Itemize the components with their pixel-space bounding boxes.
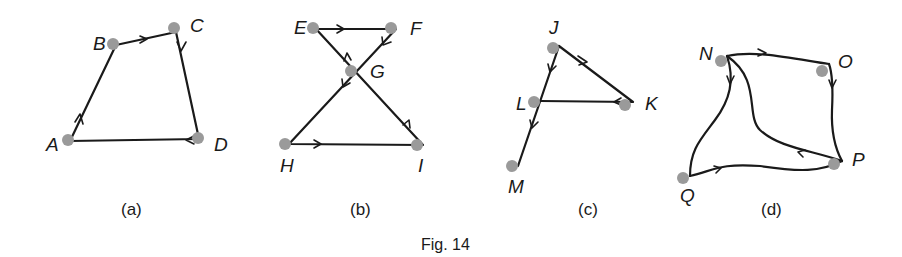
subfigure-label-b: (b) bbox=[350, 200, 371, 219]
vertex-label-i: I bbox=[418, 155, 424, 176]
subfigure-b: E F G H I (b) bbox=[279, 17, 424, 219]
vertex-n bbox=[715, 55, 727, 67]
vertex-h bbox=[279, 138, 291, 150]
vertex-label-q: Q bbox=[680, 185, 695, 206]
vertex-label-g: G bbox=[370, 61, 385, 82]
figure-caption: Fig. 14 bbox=[421, 236, 470, 253]
vertex-g bbox=[345, 65, 357, 77]
subfigure-c: J K L M (c) bbox=[506, 17, 659, 219]
edge-n-o bbox=[727, 54, 829, 64]
vertex-label-m: M bbox=[508, 176, 524, 197]
arrow-p-n bbox=[798, 150, 805, 157]
vertex-c bbox=[168, 22, 180, 34]
arrow-g-e bbox=[344, 53, 351, 61]
graph-edges-c-1 bbox=[541, 46, 633, 102]
vertex-j bbox=[547, 42, 559, 54]
vertex-label-n: N bbox=[699, 43, 713, 64]
vertex-l bbox=[528, 96, 540, 108]
subfigure-a: A B C D (a) bbox=[45, 15, 228, 219]
vertex-m bbox=[506, 160, 518, 172]
vertex-label-e: E bbox=[294, 17, 307, 38]
edge-n-q bbox=[690, 56, 731, 176]
edge-q-p bbox=[690, 161, 842, 176]
subfigure-label-d: (d) bbox=[761, 200, 782, 219]
vertex-e bbox=[307, 22, 319, 34]
subfigure-d: N O P Q (d) bbox=[677, 43, 865, 219]
vertex-p bbox=[828, 158, 840, 170]
vertex-i bbox=[411, 139, 423, 151]
vertex-label-p: P bbox=[852, 149, 865, 170]
vertex-label-k: K bbox=[645, 93, 659, 114]
vertex-f bbox=[385, 22, 397, 34]
vertex-q bbox=[677, 172, 689, 184]
arrow-c-d bbox=[177, 42, 186, 51]
vertex-label-l: L bbox=[516, 93, 527, 114]
vertex-d bbox=[192, 132, 204, 144]
vertex-label-a: A bbox=[45, 134, 59, 155]
vertex-label-c: C bbox=[190, 15, 204, 36]
vertex-label-j: J bbox=[548, 17, 559, 38]
figure-14: A B C D (a) E F G H I (b) bbox=[0, 0, 902, 257]
subfigure-label-a: (a) bbox=[121, 200, 142, 219]
vertex-label-f: F bbox=[410, 18, 423, 39]
vertex-label-d: D bbox=[214, 134, 228, 155]
vertex-o bbox=[816, 65, 828, 77]
subfigure-label-c: (c) bbox=[578, 200, 598, 219]
vertex-k bbox=[619, 99, 631, 111]
vertex-label-h: H bbox=[280, 155, 294, 176]
graph-edges-b bbox=[289, 29, 423, 145]
vertex-a bbox=[62, 134, 74, 146]
vertex-label-b: B bbox=[93, 33, 106, 54]
vertex-b bbox=[107, 38, 119, 50]
vertex-label-o: O bbox=[838, 51, 853, 72]
edge-o-p bbox=[829, 64, 842, 161]
